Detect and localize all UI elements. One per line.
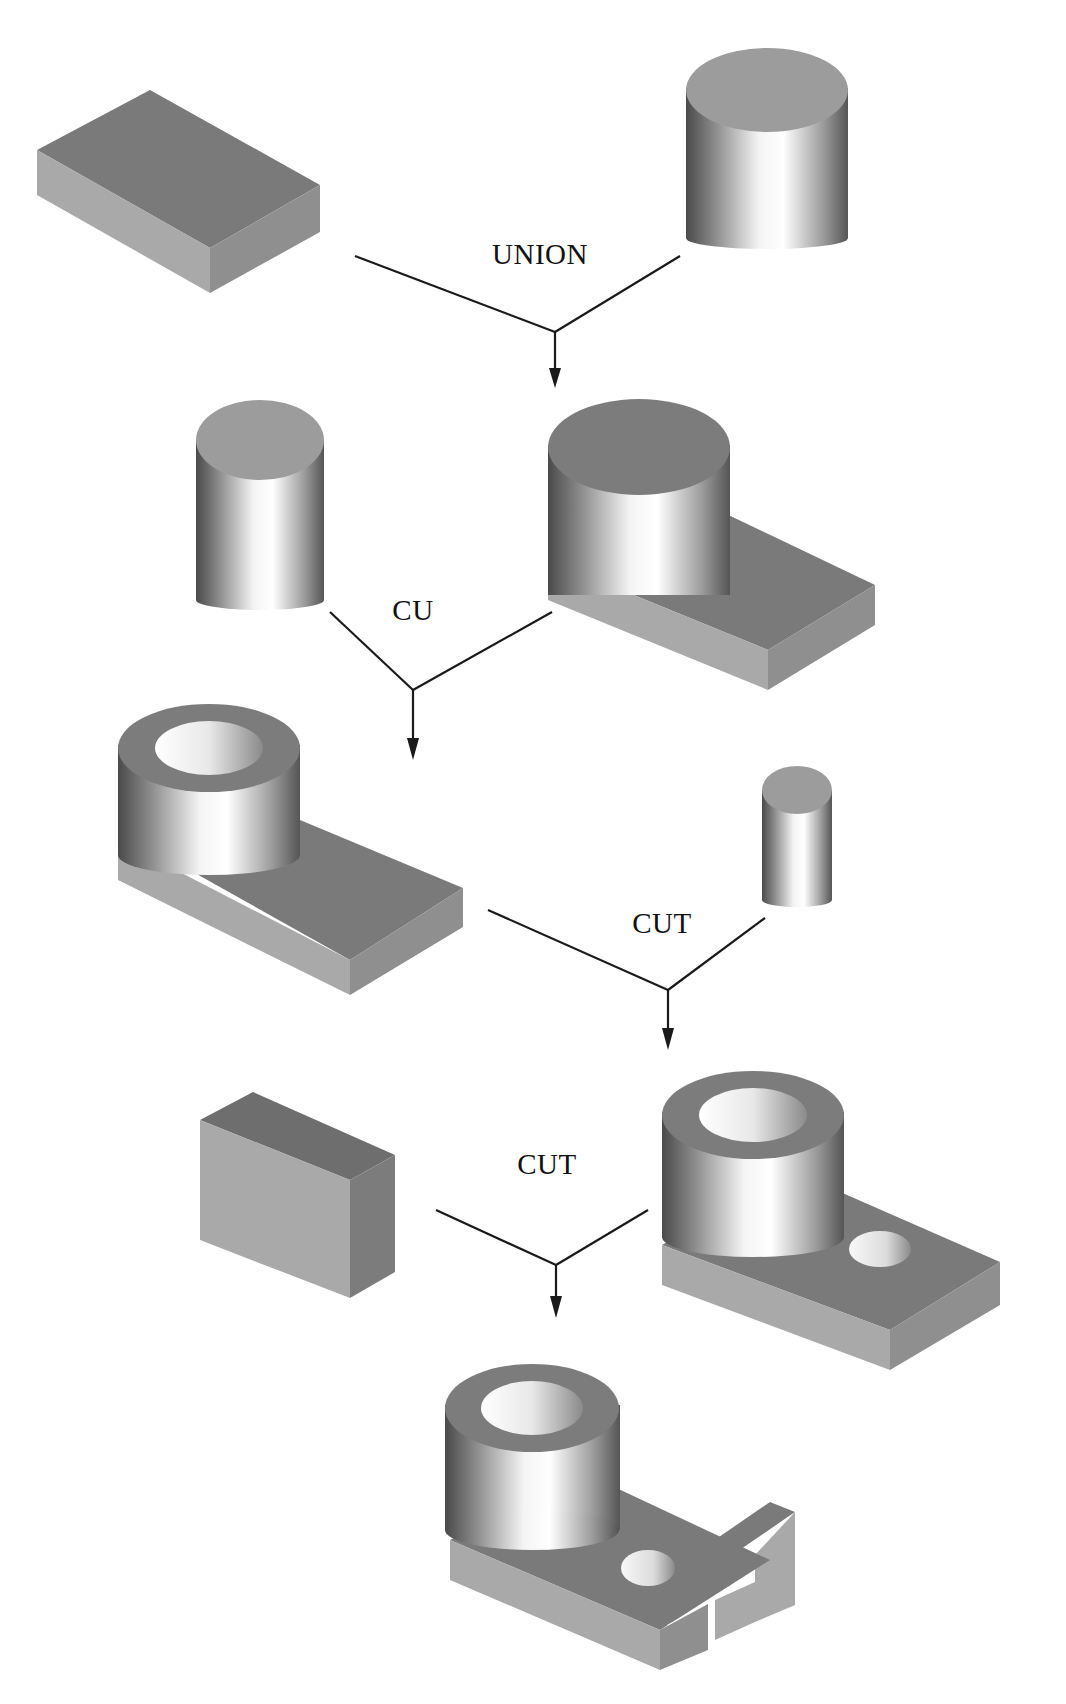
cut-connector-1 <box>488 910 765 1050</box>
slot-block-shape <box>200 1092 395 1298</box>
large-cylinder-shape <box>686 48 848 249</box>
block-shape <box>37 90 320 293</box>
holed-part-shape <box>662 1071 1000 1370</box>
operation-label-cu: CU <box>392 594 433 627</box>
cu-connector <box>330 612 552 760</box>
operation-label-cut-2: CUT <box>517 1148 577 1181</box>
final-part-shape <box>445 1364 795 1670</box>
operation-label-union: UNION <box>492 238 588 271</box>
union-result-shape <box>548 399 875 690</box>
bore-cylinder-shape <box>196 400 324 610</box>
operation-label-cut-1: CUT <box>632 907 692 940</box>
small-cylinder-shape <box>762 766 832 907</box>
union-connector <box>355 256 680 388</box>
cut-connector-2 <box>436 1210 648 1318</box>
